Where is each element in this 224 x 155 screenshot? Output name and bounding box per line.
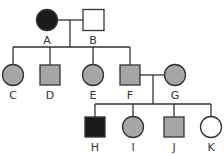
label-d: D bbox=[46, 89, 54, 102]
individual-e-female bbox=[83, 65, 104, 86]
individual-h-affected-male bbox=[85, 117, 105, 137]
individual-g-female bbox=[165, 65, 186, 86]
label-f: F bbox=[127, 89, 133, 102]
individual-k-unaffected-female bbox=[201, 117, 222, 138]
label-i: I bbox=[131, 141, 134, 154]
label-e: E bbox=[90, 89, 97, 102]
individual-i-female bbox=[123, 117, 144, 138]
individual-d-male bbox=[40, 65, 60, 85]
individuals bbox=[3, 10, 222, 138]
label-b: B bbox=[89, 34, 97, 47]
label-c: C bbox=[9, 89, 17, 102]
individual-j-male bbox=[164, 117, 184, 137]
label-g: G bbox=[171, 89, 180, 102]
pedigree-diagram: A B C D E F G H I J K bbox=[0, 0, 224, 155]
individual-f-male bbox=[120, 65, 140, 85]
label-j: J bbox=[171, 141, 175, 154]
individual-c-female bbox=[3, 65, 24, 86]
individual-b-unaffected-male bbox=[83, 10, 104, 31]
label-h: H bbox=[91, 141, 99, 154]
label-a: A bbox=[43, 34, 51, 47]
label-k: K bbox=[207, 141, 215, 154]
individual-a-affected-female bbox=[37, 10, 58, 31]
